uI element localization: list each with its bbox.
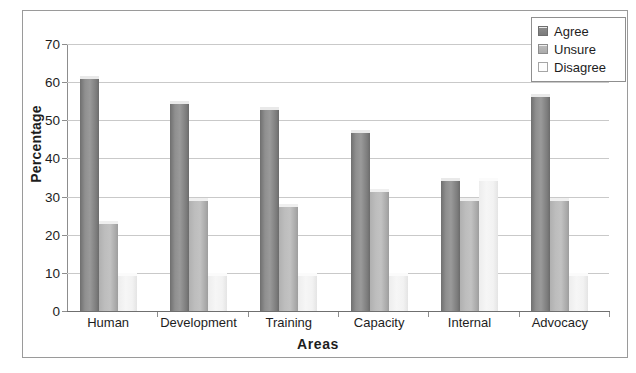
y-tick-label: 70 xyxy=(20,37,60,52)
bar-cap xyxy=(460,198,479,201)
bar-advocacy-disagree[interactable] xyxy=(569,273,588,311)
bar-chart-figure: Percentage 010203040506070 Areas Agree U… xyxy=(0,0,636,373)
y-tick-label: 30 xyxy=(20,189,60,204)
bar-cap xyxy=(80,76,99,79)
bar-cap xyxy=(260,107,279,110)
y-tick-mark xyxy=(62,235,67,236)
y-tick-label: 50 xyxy=(20,113,60,128)
x-axis-title: Areas xyxy=(0,336,636,352)
bar-cap xyxy=(531,94,550,97)
bar-human-unsure[interactable] xyxy=(99,221,118,311)
bar-capacity-disagree[interactable] xyxy=(389,273,408,311)
y-tick-mark xyxy=(62,120,67,121)
legend-label-unsure: Unsure xyxy=(554,43,596,56)
bar-training-disagree[interactable] xyxy=(298,273,317,311)
legend-swatch-unsure-icon xyxy=(538,44,548,54)
y-tick-label: 40 xyxy=(20,151,60,166)
bar-human-agree[interactable] xyxy=(80,76,99,311)
x-tick-label-advocacy: Advocacy xyxy=(500,315,620,330)
bar-human-disagree[interactable] xyxy=(118,273,137,311)
bar-training-unsure[interactable] xyxy=(279,204,298,311)
y-gridline xyxy=(67,273,609,274)
legend-item-unsure[interactable]: Unsure xyxy=(538,40,620,58)
bar-advocacy-unsure[interactable] xyxy=(550,198,569,311)
bar-development-unsure[interactable] xyxy=(189,198,208,311)
bar-capacity-agree[interactable] xyxy=(351,130,370,311)
y-tick-mark xyxy=(62,197,67,198)
bar-group xyxy=(260,44,317,311)
y-axis-tick-labels: 010203040506070 xyxy=(18,44,60,311)
y-tick-mark xyxy=(62,82,67,83)
bar-internal-agree[interactable] xyxy=(441,178,460,312)
bar-cap xyxy=(441,178,460,181)
bar-cap xyxy=(279,204,298,207)
legend-swatch-disagree-icon xyxy=(538,62,548,72)
legend-label-disagree: Disagree xyxy=(554,61,606,74)
y-tick-label: 10 xyxy=(20,265,60,280)
y-gridline xyxy=(67,197,609,198)
bar-cap xyxy=(569,273,588,276)
bar-cap xyxy=(298,273,317,276)
bar-cap xyxy=(479,178,498,181)
bar-advocacy-agree[interactable] xyxy=(531,94,550,311)
bar-group xyxy=(441,44,498,311)
bar-cap xyxy=(118,273,137,276)
bar-development-agree[interactable] xyxy=(170,101,189,311)
bar-training-agree[interactable] xyxy=(260,107,279,311)
y-tick-mark xyxy=(62,311,67,312)
bar-group xyxy=(170,44,227,311)
y-gridline xyxy=(67,44,609,45)
bar-cap xyxy=(550,198,569,201)
plot-area xyxy=(67,44,609,311)
y-tick-mark xyxy=(62,273,67,274)
bar-group xyxy=(351,44,408,311)
bar-group xyxy=(80,44,137,311)
y-gridline xyxy=(67,82,609,83)
bar-cap xyxy=(170,101,189,104)
bar-cap xyxy=(351,130,370,133)
y-tick-mark xyxy=(62,44,67,45)
bar-internal-unsure[interactable] xyxy=(460,198,479,311)
bar-cap xyxy=(389,273,408,276)
bar-cap xyxy=(99,221,118,224)
bar-cap xyxy=(208,273,227,276)
legend-item-disagree[interactable]: Disagree xyxy=(538,58,620,76)
legend-item-agree[interactable]: Agree xyxy=(538,22,620,40)
x-tick-mark xyxy=(609,312,610,317)
legend-label-agree: Agree xyxy=(554,25,589,38)
y-tick-label: 20 xyxy=(20,227,60,242)
y-tick-mark xyxy=(62,158,67,159)
bar-internal-disagree[interactable] xyxy=(479,178,498,312)
y-tick-label: 60 xyxy=(20,75,60,90)
bar-capacity-unsure[interactable] xyxy=(370,189,389,311)
bar-group xyxy=(531,44,588,311)
chart-legend: Agree Unsure Disagree xyxy=(531,17,626,82)
bar-development-disagree[interactable] xyxy=(208,273,227,311)
y-gridline xyxy=(67,235,609,236)
bar-cap xyxy=(370,189,389,192)
bar-cap xyxy=(189,198,208,201)
legend-swatch-agree-icon xyxy=(538,26,548,36)
y-gridline xyxy=(67,158,609,159)
y-gridline xyxy=(67,120,609,121)
